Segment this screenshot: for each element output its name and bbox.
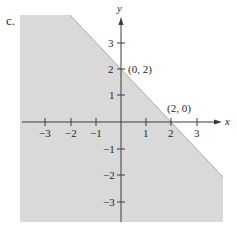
point-label-2-0: (2, 0)	[167, 102, 191, 115]
y-tick-label: 3	[108, 37, 114, 49]
x-tick-label: −3	[39, 127, 51, 139]
x-tick-label: 1	[143, 127, 149, 139]
y-tick-label: 2	[108, 63, 114, 75]
point-label-0-2: (0, 2)	[128, 63, 152, 76]
x-tick-label: 3	[194, 127, 200, 139]
y-tick-label: 1	[109, 89, 115, 101]
y-tick-label: −3	[103, 196, 115, 208]
y-axis-label: y	[116, 2, 122, 14]
x-tick-label: −2	[65, 127, 77, 139]
y-tick-label: −1	[103, 143, 115, 155]
part-label: c.	[6, 13, 15, 28]
x-axis-arrow-icon	[214, 120, 222, 125]
x-axis-label: x	[224, 115, 230, 127]
inequality-graph: c. x y −3 −2 −1 1 2 3 3 2 1 −1 −2 −3 (0,…	[0, 0, 237, 228]
x-tick-label: 2	[168, 127, 174, 139]
y-axis-arrow-icon	[119, 17, 124, 25]
y-tick-label: −2	[103, 169, 115, 181]
x-tick-label: −1	[90, 127, 102, 139]
